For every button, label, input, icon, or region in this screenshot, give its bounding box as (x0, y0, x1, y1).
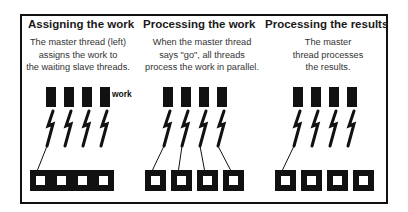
work-item-block (293, 87, 303, 107)
thread-block-inner (333, 176, 342, 185)
lightning-bolt-icon (348, 111, 354, 146)
thread-block-inner (229, 176, 238, 185)
work-item-block (181, 87, 191, 107)
lightning-bolt-icon (330, 111, 336, 146)
connection-line (38, 146, 48, 170)
thread-block-inner (281, 176, 290, 185)
thread-block-inner (57, 176, 66, 185)
work-item-block (163, 87, 173, 107)
lightning-bolt-icon (312, 111, 318, 146)
work-item-block (217, 87, 227, 107)
lightning-bolt-icon (65, 111, 71, 146)
thread-block-inner (36, 176, 45, 185)
connection-line (283, 146, 295, 170)
work-item-block (64, 87, 74, 107)
thread-block-inner (151, 176, 160, 185)
lightning-bolt-icon (218, 111, 224, 146)
lightning-bolt-icon (182, 111, 188, 146)
lightning-bolt-icon (164, 111, 170, 146)
work-item-block (199, 87, 209, 107)
thread-block-inner (203, 176, 212, 185)
work-item-block (311, 87, 321, 107)
lightning-bolt-icon (47, 111, 53, 146)
lightning-bolt-icon (83, 111, 89, 146)
lightning-bolt-icon (101, 111, 107, 146)
lightning-bolt-icon (200, 111, 206, 146)
thread-diagram (0, 0, 408, 212)
thread-block-inner (307, 176, 316, 185)
work-item-block (347, 87, 357, 107)
work-item-block (46, 87, 56, 107)
connection-line (179, 146, 183, 170)
thread-block-inner (99, 176, 108, 185)
connection-line (218, 146, 231, 170)
thread-block-inner (177, 176, 186, 185)
connection-line (153, 146, 165, 170)
thread-block-inner (359, 176, 368, 185)
thread-block-inner (78, 176, 87, 185)
lightning-bolt-icon (294, 111, 300, 146)
work-item-block (100, 87, 110, 107)
work-item-block (82, 87, 92, 107)
connection-line (200, 146, 205, 170)
work-item-block (329, 87, 339, 107)
